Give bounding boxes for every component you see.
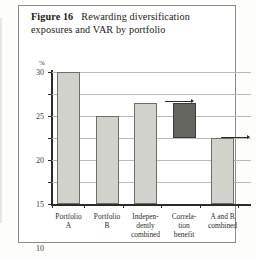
y-tick-10: 10	[48, 160, 52, 161]
figure-frame: Figure 16 Rewarding diversification expo…	[18, 5, 236, 243]
y-tick-label-10: 10	[36, 244, 44, 253]
y-tick-label-15: 15	[36, 200, 44, 209]
x-category-label-5: A and B combined	[206, 212, 240, 230]
bar-2	[96, 116, 119, 204]
bar-5	[211, 138, 234, 204]
scan-edge-artifact	[0, 18, 3, 223]
figure-number: Figure 16	[31, 11, 73, 22]
bar-1	[57, 72, 80, 204]
x-category-label-4: Correla- tion benefit	[167, 212, 201, 240]
x-tick-4	[200, 204, 201, 208]
y-tick-label-20: 20	[36, 156, 44, 165]
x-tick-0	[52, 204, 53, 208]
bar-3	[134, 103, 157, 204]
bar-chart-plot-area: % 051015202530 Portfolio APortfolio BInd…	[51, 72, 251, 204]
y-tick-15: 15	[48, 138, 52, 139]
y-axis-line	[51, 70, 53, 204]
y-tick-20: 20	[48, 116, 52, 117]
gridline-30	[51, 72, 251, 73]
connector-bottom-line	[221, 137, 249, 138]
x-axis-line	[51, 204, 251, 206]
x-category-label-1: Portfolio A	[52, 212, 86, 230]
gridline-25	[51, 94, 251, 95]
connector-top-arrow-icon	[191, 99, 194, 103]
scanned-page: Figure 16 Rewarding diversification expo…	[0, 0, 256, 260]
y-tick-25: 25	[48, 94, 52, 95]
y-tick-label-30: 30	[36, 68, 44, 77]
x-tick-5	[238, 204, 239, 208]
figure-caption: Figure 16 Rewarding diversification expo…	[31, 11, 226, 36]
x-category-label-2: Portfolio B	[90, 212, 124, 230]
y-tick-30: 30	[48, 72, 52, 73]
x-tick-3	[161, 204, 162, 208]
y-tick-5: 5	[48, 182, 52, 183]
x-tick-1	[84, 204, 85, 208]
y-tick-label-25: 25	[36, 112, 44, 121]
connector-top-line	[165, 101, 193, 102]
connector-bottom-arrow-icon	[247, 135, 250, 139]
bar-4	[173, 103, 196, 138]
x-category-label-3: Indepen- dently combined	[129, 212, 163, 240]
x-tick-2	[123, 204, 124, 208]
y-axis-unit-label: %	[39, 59, 45, 67]
